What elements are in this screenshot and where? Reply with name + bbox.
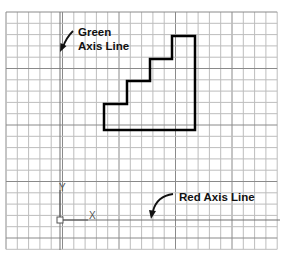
y-axis-letter: Y [59,183,66,193]
green-axis-label-line1: Green [78,25,129,39]
x-axis-letter: X [89,211,96,221]
drawing-canvas[interactable] [0,0,283,262]
green-axis-label-line2: Axis Line [78,39,129,53]
ucs-icon [57,190,88,223]
green-axis-label: Green Axis Line [78,25,129,53]
red-axis-label: Red Axis Line [179,190,255,204]
